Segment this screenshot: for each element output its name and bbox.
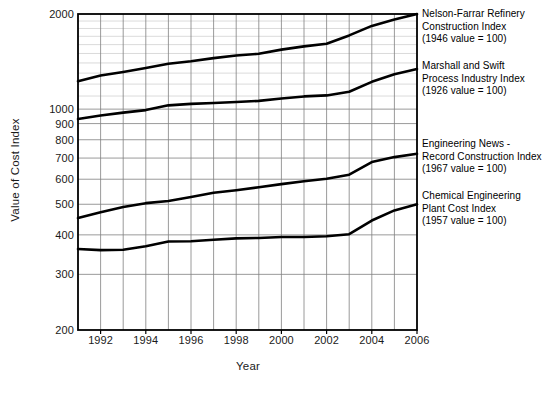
legend-entry-line: Engineering News - — [422, 138, 542, 151]
legend-entry-line: (1967 value = 100) — [422, 163, 542, 176]
legend-entry-line: Construction Index — [422, 21, 525, 34]
legend-entry-line: Chemical Engineering — [422, 190, 521, 203]
legend-entry-line: (1926 value = 100) — [422, 85, 525, 98]
legend-entry-line: Marshall and Swift — [422, 60, 525, 73]
legend-entry-line: Record Construction Index — [422, 151, 542, 164]
legend-entry-line: Plant Cost Index — [422, 203, 521, 216]
x-axis-title: Year — [78, 360, 418, 372]
legend-entry-line: Process Industry Index — [422, 73, 525, 86]
legend-entry: Nelson-Farrar RefineryConstruction Index… — [422, 8, 525, 46]
legend-entry: Engineering News -Record Construction In… — [422, 138, 542, 176]
legend-entry-line: (1946 value = 100) — [422, 33, 525, 46]
legend-entry: Chemical EngineeringPlant Cost Index(195… — [422, 190, 521, 228]
legend-entry-line: (1957 value = 100) — [422, 215, 521, 228]
legend-entry-line: Nelson-Farrar Refinery — [422, 8, 525, 21]
legend-entry: Marshall and SwiftProcess Industry Index… — [422, 60, 525, 98]
